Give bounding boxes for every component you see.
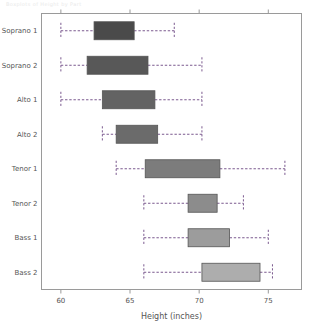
y-axis-category-label: Tenor 2 [11,200,38,208]
x-tick-label: 75 [264,297,273,305]
box-iqr-rect [202,263,260,281]
box-iqr-rect [188,229,229,247]
boxplot-canvas: 60657075Height (inches)Soprano 1Soprano … [0,0,313,328]
box-iqr-rect [94,22,134,40]
y-axis-category-label: Tenor 1 [11,165,38,173]
plot-frame [42,14,302,290]
y-axis-category-label: Alto 2 [17,131,37,139]
x-tick-label: 60 [56,297,65,305]
box-iqr-rect [188,194,217,212]
y-axis-category-label: Soprano 1 [2,27,38,35]
y-axis-category-label: Alto 1 [17,96,37,104]
y-axis-category-label: Bass 2 [14,269,37,277]
box-iqr-rect [102,91,155,109]
x-tick-label: 65 [126,297,135,305]
box-iqr-rect [87,56,148,74]
box-iqr-rect [145,160,220,178]
y-axis-category-label: Soprano 2 [2,62,38,70]
box-iqr-rect [116,125,157,143]
boxplot-figure: 60657075Height (inches)Soprano 1Soprano … [0,0,313,328]
x-axis-title: Height (inches) [141,312,202,321]
y-axis-category-label: Bass 1 [14,234,37,242]
x-tick-label: 70 [195,297,204,305]
